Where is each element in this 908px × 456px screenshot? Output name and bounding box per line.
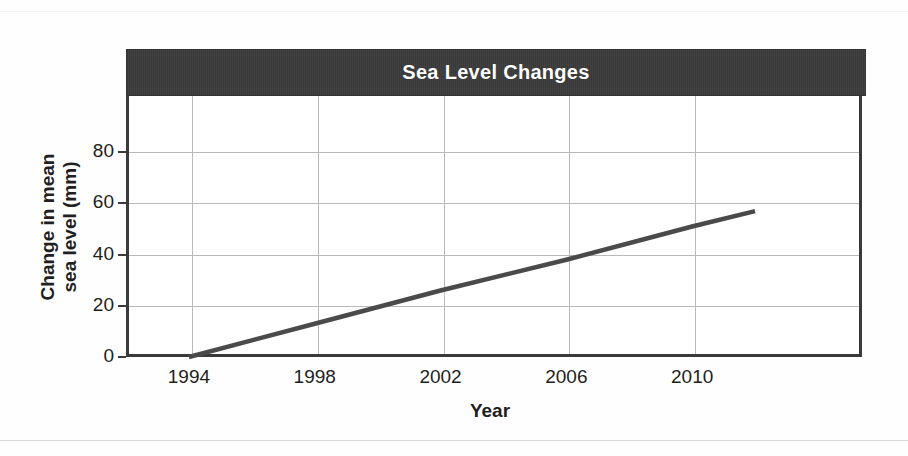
y-tick-label: 60 (72, 191, 114, 213)
x-tick-label: 2002 (419, 366, 461, 388)
x-tick-label: 2006 (545, 366, 587, 388)
page-bottom-rule (0, 440, 908, 441)
y-tick-mark (118, 305, 126, 307)
y-tick-mark (118, 356, 126, 358)
sea-level-changes-chart: Sea Level Changes Change in mean sea lev… (0, 0, 908, 440)
chart-title: Sea Level Changes (402, 61, 589, 84)
x-tick-label: 1998 (294, 366, 336, 388)
data-series-layer (126, 96, 862, 357)
chart-title-banner: Sea Level Changes (126, 49, 866, 96)
y-tick-label: 0 (72, 345, 114, 367)
sea-level-line (189, 211, 755, 357)
y-axis-title-line-1: Change in mean (37, 153, 58, 300)
y-axis-title-wrapper: Change in mean sea level (mm) (24, 96, 94, 357)
x-axis-title: Year (0, 400, 908, 422)
y-tick-mark (118, 151, 126, 153)
y-axis-title: Change in mean sea level (mm) (37, 153, 82, 300)
y-tick-label: 80 (72, 140, 114, 162)
x-axis-title-text: Year (470, 400, 510, 422)
y-tick-label: 20 (72, 294, 114, 316)
y-axis-title-line-2: sea level (mm) (59, 161, 80, 292)
y-tick-mark (118, 254, 126, 256)
y-tick-mark (118, 202, 126, 204)
x-tick-label: 1994 (168, 366, 210, 388)
x-tick-label: 2010 (671, 366, 713, 388)
figure-page: Sea Level Changes Change in mean sea lev… (0, 0, 908, 456)
y-tick-label: 40 (72, 243, 114, 265)
